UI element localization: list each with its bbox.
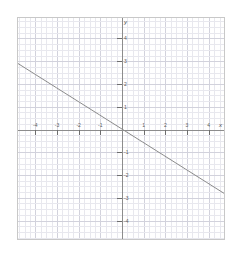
line-series-layer [18,18,224,239]
graph-figure: -4-3-2-11234-4-3-2-11234 x y [0,0,242,255]
x-axis-label: x [219,122,222,128]
y-axis-label: y [124,19,127,25]
plot-area: -4-3-2-11234-4-3-2-11234 x y [17,17,225,240]
data-line [18,64,224,194]
